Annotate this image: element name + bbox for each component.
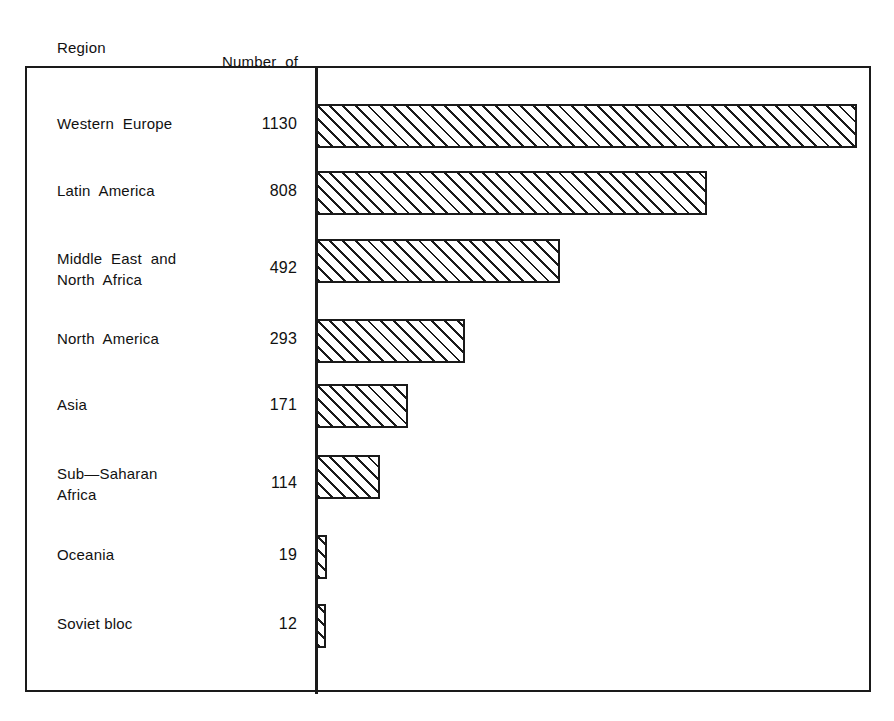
row-label-7: Soviet bloc [57, 613, 133, 634]
bar-2 [316, 239, 560, 283]
row-label-line1: Middle East and [57, 248, 176, 269]
row-label-line1: Asia [57, 394, 87, 415]
row-label-4: Asia [57, 394, 87, 415]
row-label-1: Latin America [57, 180, 155, 201]
row-value-0: 1130 [180, 113, 297, 134]
row-label-2: Middle East andNorth Africa [57, 248, 176, 290]
row-value-2: 492 [180, 257, 297, 278]
bar-5 [316, 455, 380, 499]
bar-chart-figure: Region Number of attacks Western Europe1… [0, 0, 894, 721]
row-value-7: 12 [180, 613, 297, 634]
bar-4 [316, 384, 408, 428]
row-label-line1: North America [57, 328, 159, 349]
row-label-line2: North Africa [57, 269, 176, 290]
row-label-5: Sub—SaharanAfrica [57, 463, 158, 505]
row-label-line1: Oceania [57, 544, 114, 565]
bar-6 [316, 535, 327, 579]
row-label-0: Western Europe [57, 113, 172, 134]
row-label-line1: Soviet bloc [57, 613, 133, 634]
bar-7 [316, 604, 326, 648]
column-header-region: Region [57, 38, 106, 57]
row-value-1: 808 [180, 180, 297, 201]
row-label-line1: Western Europe [57, 113, 172, 134]
row-value-6: 19 [180, 544, 297, 565]
row-value-3: 293 [180, 328, 297, 349]
bar-3 [316, 319, 465, 363]
value-axis-line [315, 66, 318, 694]
bar-1 [316, 171, 707, 215]
row-label-line2: Africa [57, 484, 158, 505]
row-label-line1: Latin America [57, 180, 155, 201]
row-value-4: 171 [180, 394, 297, 415]
bar-0 [316, 104, 857, 148]
row-value-5: 114 [180, 472, 297, 493]
row-label-3: North America [57, 328, 159, 349]
chart-frame [25, 66, 871, 692]
row-label-line1: Sub—Saharan [57, 463, 158, 484]
row-label-6: Oceania [57, 544, 114, 565]
